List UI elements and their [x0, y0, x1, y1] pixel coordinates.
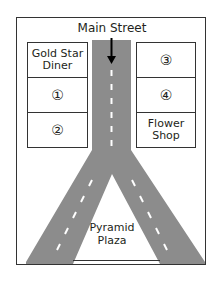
pyramid-plaza: Pyramid Plaza	[82, 222, 142, 247]
gold-star-diner-line2: Diner	[43, 60, 73, 73]
flower-shop-line2: Shop	[152, 130, 180, 143]
gold-star-diner: Gold Star Diner	[27, 42, 88, 78]
pyramid-plaza-line2: Plaza	[82, 235, 142, 248]
lot-1: ①	[27, 77, 88, 113]
flower-shop: Flower Shop	[136, 112, 196, 148]
pyramid-plaza-line1: Pyramid	[82, 222, 142, 235]
lot-2: ②	[27, 112, 88, 148]
lot-4: ④	[136, 77, 196, 113]
street-map: Main Street Gold Star Diner ① ② ③ ④ Flow…	[0, 0, 215, 288]
main-street-label: Main Street	[60, 22, 164, 35]
lot-3: ③	[136, 42, 196, 78]
